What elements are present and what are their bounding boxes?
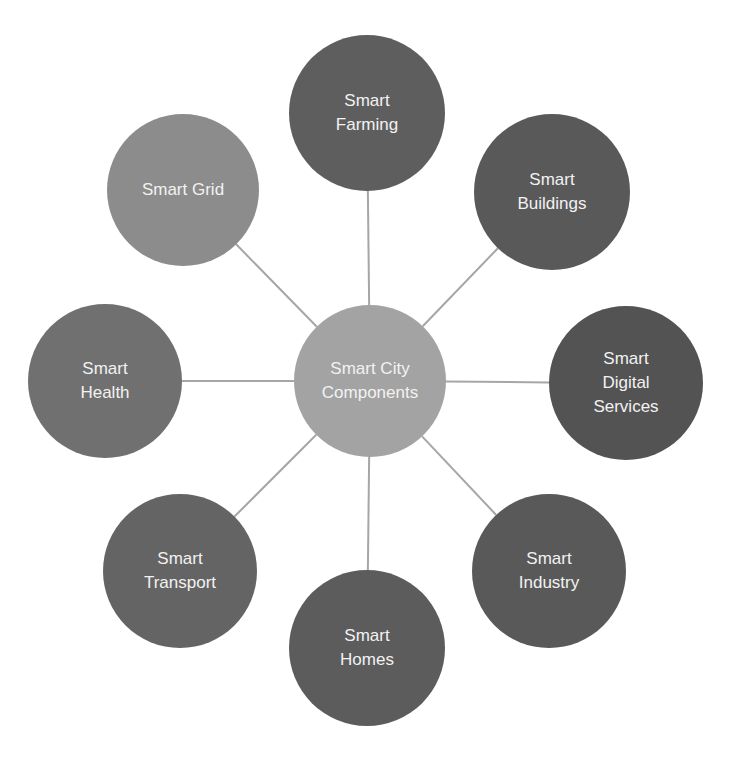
node-smart-homes: Smart Homes — [289, 570, 445, 726]
center-node-label: Smart City Components — [312, 357, 428, 405]
connector-line-buildings — [423, 248, 498, 326]
node-smart-grid: Smart Grid — [107, 114, 259, 266]
node-smart-transport: Smart Transport — [103, 494, 257, 648]
node-label: Smart Industry — [509, 547, 589, 595]
connector-line-transport — [234, 435, 316, 517]
connector-line-farming — [368, 191, 369, 305]
node-label: Smart Health — [70, 357, 139, 405]
node-smart-health: Smart Health — [28, 304, 182, 458]
node-smart-farming: Smart Farming — [289, 35, 445, 191]
node-label: Smart Grid — [132, 178, 234, 202]
connector-line-industry — [422, 436, 496, 515]
node-smart-digital-services: Smart Digital Services — [549, 306, 703, 460]
node-label: Smart Transport — [134, 547, 226, 595]
node-label: Smart Homes — [330, 624, 404, 672]
node-smart-buildings: Smart Buildings — [474, 114, 630, 270]
center-node-smart-city-components: Smart City Components — [294, 305, 446, 457]
node-label: Smart Buildings — [508, 168, 597, 216]
node-smart-industry: Smart Industry — [472, 494, 626, 648]
node-label: Smart Digital Services — [583, 347, 668, 419]
connector-line-digital-services — [446, 382, 549, 383]
node-label: Smart Farming — [326, 89, 408, 137]
connector-line-homes — [368, 457, 369, 570]
connector-line-grid — [236, 244, 317, 326]
